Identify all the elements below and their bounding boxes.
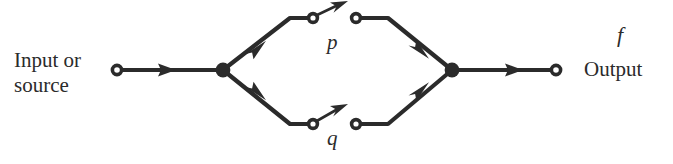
output-node (551, 65, 560, 74)
upper-gain-output-node (352, 14, 361, 23)
lower-gain-arrowhead (330, 104, 348, 116)
lower-to-summing-line (360, 70, 452, 124)
input-source-label-line2: source (14, 73, 81, 98)
upper-to-summing-line (360, 18, 452, 70)
output-variable-label: f (617, 22, 623, 48)
gain-arrow-group (315, 1, 348, 122)
summing-junction-node (445, 63, 460, 78)
input-source-label: Input orsource (14, 48, 81, 98)
input-source-label-line1: Input or (14, 48, 81, 72)
lower-branch-label: q (327, 126, 338, 151)
output-label: Output (584, 57, 642, 82)
upper-branch-label: p (327, 30, 338, 55)
upper-gain-arrow-shaft (315, 6, 336, 16)
upper-gain-input-node (309, 14, 318, 23)
lower-gain-arrow-shaft (315, 110, 336, 122)
lower-gain-input-node (309, 120, 318, 129)
junction-to-lower-line (223, 70, 309, 124)
lower-gain-output-node (352, 120, 361, 129)
signal-flow-diagram: Input orsource f Output p q (0, 0, 673, 164)
junction-to-upper-line (223, 18, 309, 70)
source-node (112, 65, 121, 74)
branch-junction-node (216, 63, 231, 78)
